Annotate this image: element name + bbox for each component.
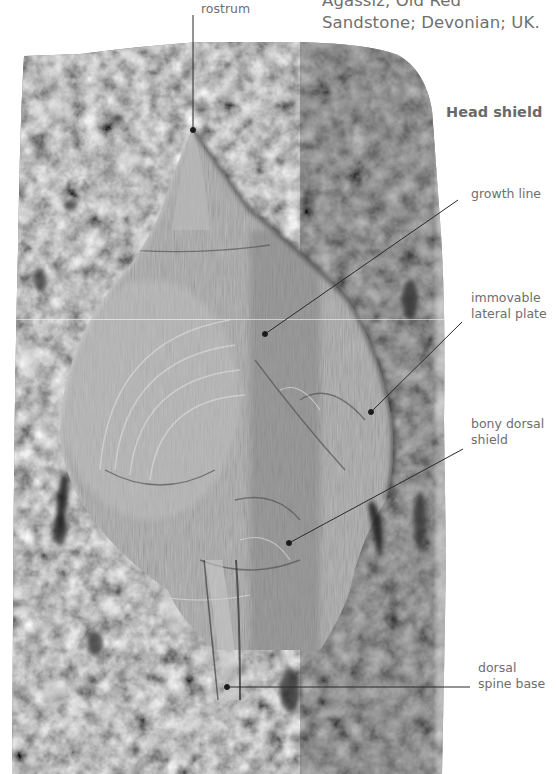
- section-heading: Head shield: [446, 104, 542, 120]
- pointer-dot-rostrum: [190, 127, 195, 132]
- label-rostrum: rostrum: [201, 1, 250, 17]
- caption-line-2: Sandstone; Devonian; UK.: [322, 12, 540, 34]
- pointer-dot-dorsal-spine-base: [224, 684, 229, 689]
- label-dorsal-spine-base: dorsal spine base: [478, 660, 545, 692]
- specimen-figure: Agassiz, Old Red Sandstone; Devonian; UK…: [0, 0, 556, 774]
- label-immovable-lateral-plate: immovable lateral plate: [471, 290, 547, 322]
- label-bony-dorsal-shield: bony dorsal shield: [471, 416, 544, 448]
- pointer-dot-growth-line: [262, 331, 267, 336]
- pointer-dot-immovable-lateral-plate: [368, 409, 373, 414]
- pointer-dot-bony-dorsal-shield: [286, 540, 291, 545]
- caption-line-1: Agassiz, Old Red: [322, 0, 461, 12]
- label-growth-line: growth line: [471, 186, 541, 202]
